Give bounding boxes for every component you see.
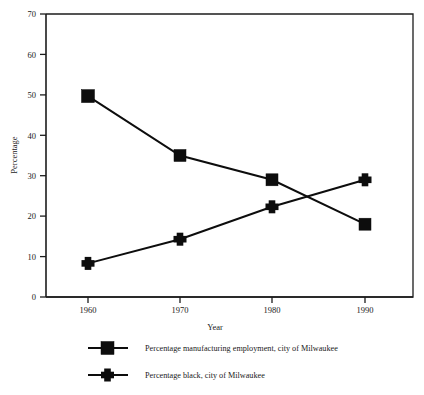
x-axis-ticks bbox=[88, 297, 365, 303]
data-point-marker bbox=[82, 257, 95, 270]
data-point-marker bbox=[174, 233, 187, 246]
legend-label: Percentage manufacturing employment, cit… bbox=[145, 344, 338, 353]
y-tick-label: 70 bbox=[28, 9, 37, 19]
y-tick-label: 60 bbox=[28, 50, 37, 60]
y-axis-ticks bbox=[40, 14, 46, 297]
y-tick-label: 30 bbox=[28, 171, 37, 181]
square-marker-icon bbox=[101, 342, 114, 355]
x-axis-title: Year bbox=[207, 322, 223, 332]
chart-figure: 70 60 50 40 30 20 10 0 Percentage 1960 1… bbox=[0, 0, 424, 395]
y-tick-label: 0 bbox=[32, 292, 36, 302]
data-point-marker bbox=[359, 218, 371, 230]
legend-entry-manufacturing-employment[interactable]: Percentage manufacturing employment, cit… bbox=[88, 342, 338, 355]
y-tick-label: 40 bbox=[28, 131, 37, 141]
y-axis-tick-labels: 70 60 50 40 30 20 10 0 bbox=[28, 9, 37, 302]
data-point-marker bbox=[266, 174, 278, 186]
series-manufacturing-employment bbox=[82, 90, 372, 231]
data-point-marker bbox=[266, 200, 279, 213]
x-tick-label: 1980 bbox=[264, 305, 281, 315]
plus-marker-icon bbox=[101, 369, 114, 382]
x-tick-label: 1960 bbox=[80, 305, 97, 315]
x-tick-label: 1990 bbox=[357, 305, 374, 315]
legend-label: Percentage black, city of Milwaukee bbox=[145, 371, 265, 380]
y-axis-title: Percentage bbox=[9, 136, 19, 174]
data-point-marker bbox=[359, 173, 372, 186]
legend-entry-percentage-black[interactable]: Percentage black, city of Milwaukee bbox=[88, 369, 265, 382]
y-tick-label: 20 bbox=[28, 211, 37, 221]
y-tick-label: 10 bbox=[28, 252, 37, 262]
plot-frame bbox=[46, 14, 413, 297]
x-tick-label: 1970 bbox=[172, 305, 189, 315]
x-axis-tick-labels: 1960 1970 1980 1990 bbox=[80, 305, 374, 315]
chart-legend: Percentage manufacturing employment, cit… bbox=[88, 342, 338, 382]
y-tick-label: 50 bbox=[28, 90, 37, 100]
data-point-marker bbox=[82, 90, 95, 103]
series-percentage-black bbox=[82, 173, 372, 270]
line-chart: 70 60 50 40 30 20 10 0 Percentage 1960 1… bbox=[0, 0, 424, 395]
data-point-marker bbox=[174, 150, 186, 162]
